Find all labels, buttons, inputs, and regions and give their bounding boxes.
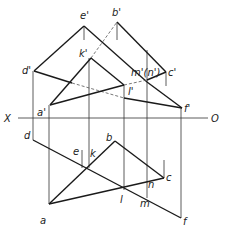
label-f-prime: f' [184, 103, 190, 114]
axis-label-o: O [211, 113, 219, 124]
label-m: m [140, 198, 150, 209]
label-k-prime: k' [79, 48, 88, 59]
label-e-prime: e' [80, 10, 89, 21]
label-d: d [24, 130, 31, 141]
label-a-prime: a' [37, 107, 46, 118]
label-n: n [148, 179, 154, 190]
label-a: a [40, 215, 46, 226]
label-c-prime: c' [168, 67, 176, 78]
front-view [34, 22, 182, 108]
top-view [33, 140, 181, 218]
label-l: l [120, 194, 123, 205]
label-l-prime: l' [128, 86, 134, 97]
label-d-prime: d' [22, 65, 31, 76]
label-k: k [90, 148, 97, 159]
label-f: f [183, 216, 188, 227]
label-b: b [106, 132, 112, 143]
axis-label-x: X [3, 113, 12, 124]
label-b-prime: b' [112, 7, 121, 18]
label-e: e [73, 146, 79, 157]
label-m-n-prime: m'(n') [131, 67, 160, 78]
projection-diagram: X O e' [0, 0, 226, 229]
label-c: c [166, 172, 172, 183]
